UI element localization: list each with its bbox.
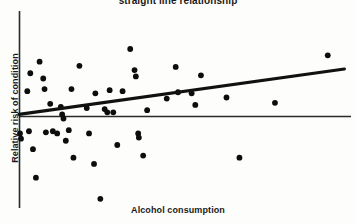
data-points-group bbox=[17, 46, 331, 202]
data-point bbox=[97, 196, 103, 202]
data-point bbox=[120, 88, 126, 94]
data-point bbox=[26, 128, 32, 134]
data-point bbox=[40, 76, 46, 82]
data-point bbox=[30, 146, 36, 152]
data-point bbox=[198, 72, 204, 78]
data-point bbox=[91, 161, 97, 167]
data-point bbox=[71, 155, 77, 161]
scatter-plot-canvas bbox=[0, 0, 356, 224]
chart-figure: straight line relationship Relative risk… bbox=[0, 0, 356, 224]
data-point bbox=[47, 101, 53, 107]
data-point bbox=[132, 67, 138, 73]
data-point bbox=[66, 127, 72, 133]
data-point bbox=[61, 116, 67, 122]
data-point bbox=[133, 74, 139, 80]
data-point bbox=[43, 129, 49, 135]
data-point bbox=[110, 109, 116, 115]
data-point bbox=[27, 70, 33, 76]
data-point bbox=[86, 130, 92, 136]
data-point bbox=[107, 87, 113, 93]
data-point bbox=[63, 138, 69, 144]
trend-line-group bbox=[19, 69, 344, 114]
data-point bbox=[164, 96, 170, 102]
regression-line bbox=[19, 69, 344, 114]
data-point bbox=[42, 86, 48, 92]
x-axis-label: Alcohol consumption bbox=[0, 205, 356, 215]
data-point bbox=[144, 107, 150, 113]
y-axis-label: Relative risk of condition bbox=[10, 28, 20, 188]
data-point bbox=[173, 64, 179, 70]
data-point bbox=[69, 86, 75, 92]
data-point bbox=[127, 46, 133, 52]
data-point bbox=[136, 135, 142, 141]
data-point bbox=[92, 90, 98, 96]
data-point bbox=[54, 130, 60, 136]
data-point bbox=[237, 155, 243, 161]
data-point bbox=[114, 142, 120, 148]
data-point bbox=[37, 59, 43, 65]
data-point bbox=[33, 175, 39, 181]
data-point bbox=[77, 63, 83, 69]
data-point bbox=[272, 100, 278, 106]
data-point bbox=[24, 88, 30, 94]
data-point bbox=[140, 153, 146, 159]
data-point bbox=[325, 52, 331, 58]
data-point bbox=[104, 109, 110, 115]
axes-group bbox=[19, 11, 351, 208]
data-point bbox=[192, 102, 198, 108]
data-point bbox=[224, 95, 230, 101]
